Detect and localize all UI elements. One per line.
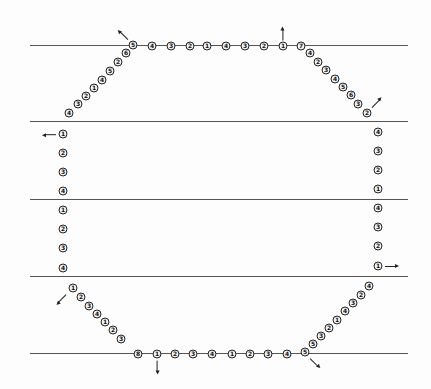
arrow-up-icon [282,29,283,41]
numbered-marker: 5 [301,348,310,357]
diagram-canvas: 5432143217625412344234563212341234432143… [0,0,431,389]
numbered-marker: 1 [101,318,110,327]
numbered-marker: 3 [241,42,250,51]
numbered-marker: 4 [283,350,292,359]
horizontal-line [30,353,408,354]
numbered-marker: 5 [309,340,318,349]
numbered-marker: 2 [171,350,180,359]
numbered-marker: 3 [117,335,126,344]
numbered-marker: 5 [339,83,348,92]
numbered-marker: 2 [374,166,383,175]
numbered-marker: 4 [365,282,374,291]
numbered-marker: 1 [90,84,99,93]
arrow-down-icon [156,361,157,373]
numbered-marker: 1 [374,185,383,194]
horizontal-line [30,199,408,200]
numbered-marker: 4 [65,109,74,118]
horizontal-line [30,121,408,122]
numbered-marker: 4 [331,75,340,84]
numbered-marker: 4 [222,42,231,51]
numbered-marker: 7 [297,42,306,51]
arrow-down-right-icon [310,358,319,367]
numbered-marker: 2 [109,326,118,335]
numbered-marker: 3 [189,350,198,359]
numbered-marker: 4 [208,350,217,359]
numbered-marker: 4 [374,128,383,137]
numbered-marker: 5 [106,67,115,76]
numbered-marker: 3 [322,66,331,75]
numbered-marker: 3 [317,332,326,341]
numbered-marker: 2 [357,291,366,300]
numbered-marker: 4 [148,42,157,51]
numbered-marker: 2 [314,58,323,67]
numbered-marker: 1 [228,350,237,359]
numbered-marker: 6 [122,49,131,58]
numbered-marker: 4 [59,187,68,196]
numbered-marker: 6 [347,91,356,100]
numbered-marker: 2 [59,225,68,234]
numbered-marker: 5 [129,41,138,50]
arrow-up-right-icon [372,99,381,108]
numbered-marker: 3 [349,299,358,308]
numbered-marker: 2 [325,324,334,333]
numbered-marker: 4 [98,76,107,85]
numbered-marker: 4 [306,49,315,58]
arrow-right-icon [385,266,397,267]
numbered-marker: 4 [93,310,102,319]
numbered-marker: 3 [59,168,68,177]
numbered-marker: 2 [82,92,91,101]
numbered-marker: 1 [203,42,212,51]
numbered-marker: 1 [59,130,68,139]
numbered-marker: 2 [363,109,372,118]
numbered-marker: 4 [374,204,383,213]
numbered-marker: 1 [333,316,342,325]
numbered-marker: 3 [264,350,273,359]
numbered-marker: 3 [167,42,176,51]
numbered-marker: 2 [374,242,383,251]
numbered-marker: 1 [153,350,162,359]
arrow-left-icon [44,134,56,135]
numbered-marker: 2 [186,42,195,51]
numbered-marker: 8 [134,350,143,359]
numbered-marker: 3 [374,147,383,156]
arrow-up-left-icon [119,31,128,40]
numbered-marker: 2 [260,42,269,51]
numbered-marker: 2 [114,58,123,67]
numbered-marker: 1 [59,206,68,215]
numbered-marker: 2 [246,350,255,359]
numbered-marker: 3 [59,244,68,253]
numbered-marker: 3 [374,223,383,232]
numbered-marker: 2 [59,149,68,158]
numbered-marker: 1 [374,262,383,271]
numbered-marker: 4 [59,264,68,273]
numbered-marker: 4 [341,307,350,316]
numbered-marker: 3 [354,100,363,109]
arrow-down-left-icon [57,294,66,303]
numbered-marker: 3 [85,302,94,311]
numbered-marker: 1 [279,42,288,51]
numbered-marker: 2 [77,293,86,302]
numbered-marker: 3 [74,100,83,109]
horizontal-line [30,45,408,46]
numbered-marker: 1 [69,284,78,293]
horizontal-line [30,276,408,277]
